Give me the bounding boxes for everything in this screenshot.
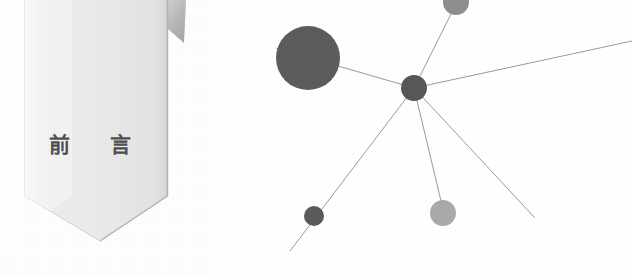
page-root: 前 言 <box>0 0 632 275</box>
network-svg <box>0 0 632 275</box>
edge-hub-to-lower-right <box>414 88 535 218</box>
edge-hub-to-right-edge <box>414 41 632 88</box>
large-left-node <box>276 26 340 90</box>
edge-hub-to-lower-middle <box>414 88 441 201</box>
network-nodes <box>276 0 469 226</box>
edge-hub-to-lower-left <box>290 88 414 251</box>
central-hub-node <box>401 75 427 101</box>
edge-hub-to-top-node <box>414 10 453 88</box>
network-graphic <box>0 0 632 275</box>
lower-middle-node <box>430 200 456 226</box>
lower-left-node <box>304 206 324 226</box>
top-clipped-node <box>443 0 469 15</box>
